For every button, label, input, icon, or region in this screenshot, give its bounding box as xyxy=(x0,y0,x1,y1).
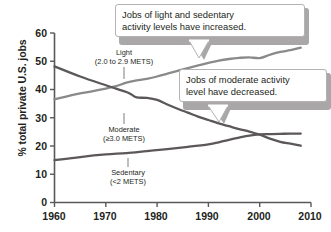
callout-decrease-tail xyxy=(0,0,328,232)
chart-figure: % total private U.S. jobs 60 50 40 30 20… xyxy=(0,0,328,232)
